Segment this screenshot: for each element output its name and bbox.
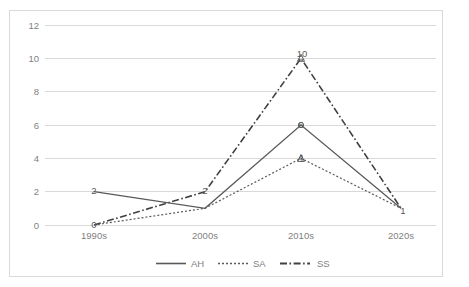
series-ah-line[interactable] (94, 125, 401, 208)
legend-label-ah: AH (191, 258, 204, 269)
legend-item-ah[interactable]: AH (156, 258, 204, 269)
data-label-ah-2010s: 6 (298, 119, 303, 130)
series-sa[interactable] (94, 155, 401, 226)
y-axis-tick-labels: 12 10 8 6 4 2 0 (28, 20, 39, 231)
data-label-sa-1990s: 0 (91, 219, 96, 230)
chart-plot-svg: 12 10 8 6 4 2 0 2 0 2 10 6 (10, 11, 444, 278)
x-tick-label-2000s: 2000s (192, 230, 218, 241)
y-tick-label-2: 2 (34, 186, 39, 197)
legend-label-ss: SS (317, 258, 330, 269)
series-ss-line[interactable] (94, 58, 401, 225)
legend-item-sa[interactable]: SA (218, 258, 266, 269)
legend-label-sa: SA (253, 258, 266, 269)
series-ah[interactable] (94, 122, 401, 208)
x-tick-label-1990s: 1990s (81, 230, 107, 241)
legend-item-ss[interactable]: SS (280, 258, 330, 269)
chart-legend: AH SA SS (156, 258, 330, 269)
data-label-ah-1990s: 2 (91, 185, 96, 196)
data-label-ss-2000s: 2 (202, 185, 207, 196)
data-label-sa-2010s: 4 (298, 152, 303, 163)
data-labels: 2 0 2 10 6 4 1 (91, 48, 405, 230)
y-tick-label-6: 6 (34, 120, 39, 131)
y-tick-label-8: 8 (34, 86, 39, 97)
series-ss[interactable] (94, 54, 401, 225)
gridlines (45, 25, 436, 225)
data-label-ss-2020s: 1 (400, 205, 405, 216)
y-tick-label-0: 0 (34, 220, 39, 231)
line-chart-figure[interactable]: 12 10 8 6 4 2 0 2 0 2 10 6 (9, 10, 443, 277)
y-tick-label-10: 10 (28, 53, 39, 64)
y-tick-label-4: 4 (34, 153, 39, 164)
x-tick-label-2020s: 2020s (388, 230, 414, 241)
x-axis-tick-labels: 1990s 2000s 2010s 2020s (81, 230, 414, 241)
x-tick-label-2010s: 2010s (288, 230, 314, 241)
data-label-ss-2010s: 10 (297, 48, 308, 59)
y-tick-label-12: 12 (28, 20, 39, 31)
